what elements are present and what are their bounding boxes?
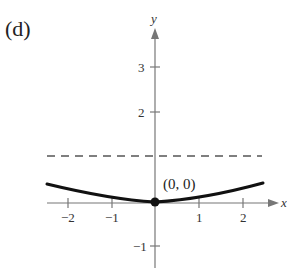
point-label: (0, 0) [163, 176, 196, 193]
x-axis-label: x [280, 195, 287, 210]
origin-point [151, 198, 160, 207]
x-axis-arrow-icon [268, 199, 279, 207]
y-tick-label: −1 [133, 239, 147, 254]
x-tick-label: −1 [105, 210, 119, 225]
y-tick-label: 3 [138, 60, 145, 75]
x-tick-label: −2 [61, 210, 75, 225]
y-axis-arrow-icon [151, 28, 159, 39]
x-tick-label: 2 [240, 210, 247, 225]
graph: −2 −1 1 2 3 2 −1 x y (0, 0) [0, 0, 287, 271]
x-tick-label: 1 [196, 210, 203, 225]
y-axis-label: y [149, 11, 157, 26]
y-tick-label: 2 [138, 105, 145, 120]
